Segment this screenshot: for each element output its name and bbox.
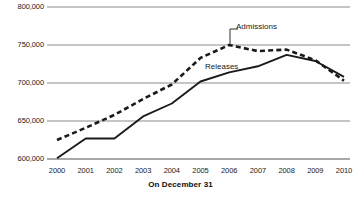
admissions-leader-line: [230, 29, 238, 46]
line-chart: 800,000750,000700,000650,000600,000 2000…: [0, 0, 361, 200]
y-axis-tick-label: 750,000: [0, 40, 44, 49]
x-axis-tick-label: 2003: [130, 166, 156, 175]
data-series-group: [57, 45, 344, 158]
x-axis-tick-label: 2004: [159, 166, 185, 175]
y-axis-tick-label: 600,000: [0, 154, 44, 163]
x-axis-tick-label: 2007: [245, 166, 271, 175]
series-label-admissions: Admissions: [236, 22, 277, 31]
series-line-releases: [57, 55, 344, 158]
series-label-releases: Releases: [205, 62, 238, 71]
annotation-leader-lines: [230, 29, 238, 46]
x-axis-tick-label: 2006: [216, 166, 242, 175]
y-axis-tick-label: 650,000: [0, 116, 44, 125]
x-axis-tick-label: 2001: [73, 166, 99, 175]
x-axis-tick-label: 2000: [44, 166, 70, 175]
x-axis-tick-label: 2009: [302, 166, 328, 175]
x-axis-tick-label: 2008: [274, 166, 300, 175]
y-axis-tick-label: 800,000: [0, 2, 44, 11]
x-axis-tick-label: 2005: [188, 166, 214, 175]
x-axis-tick-label: 2010: [331, 166, 357, 175]
x-axis-tick-label: 2002: [101, 166, 127, 175]
series-line-admissions: [57, 45, 344, 140]
x-axis-title: On December 31: [0, 180, 361, 189]
y-axis-tick-label: 700,000: [0, 78, 44, 87]
